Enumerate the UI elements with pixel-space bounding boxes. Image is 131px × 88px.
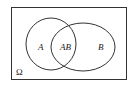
set-a-label: A xyxy=(37,42,44,52)
set-b-label: B xyxy=(98,42,104,52)
venn-diagram: A AB B Ω xyxy=(0,0,131,88)
intersection-label: AB xyxy=(59,42,71,52)
universe-label: Ω xyxy=(16,67,23,77)
